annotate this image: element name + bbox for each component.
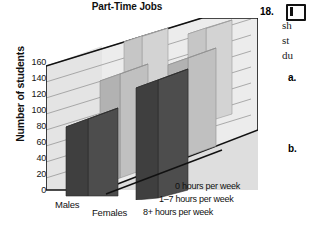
problem-number: 18. bbox=[260, 6, 274, 17]
y-tick-160: 160 bbox=[20, 57, 46, 67]
y-tick-100: 100 bbox=[20, 105, 46, 115]
problem-text-line-1: sh bbox=[282, 19, 292, 31]
y-tick-120: 120 bbox=[20, 89, 46, 99]
chart-title: Part-Time Jobs bbox=[52, 1, 202, 12]
page-root: Part-Time Jobs Number of students 160 14… bbox=[0, 0, 310, 226]
textbook-problem-18: 18. sh st du a. b. bbox=[258, 0, 310, 226]
y-tick-60: 60 bbox=[20, 137, 46, 147]
problem-subpart-b: b. bbox=[288, 143, 297, 154]
y-axis-ticks: 160 140 120 100 80 60 40 20 0 bbox=[18, 0, 46, 226]
problem-text-line-2: st bbox=[282, 34, 289, 46]
bar-chart-figure: Part-Time Jobs Number of students 160 14… bbox=[0, 0, 258, 226]
problem-text-line-3: du bbox=[282, 49, 293, 61]
y-tick-40: 40 bbox=[20, 153, 46, 163]
problem-subpart-a: a. bbox=[288, 72, 296, 83]
y-tick-0: 0 bbox=[20, 185, 46, 195]
depth-label-0-hours: 0 hours per week bbox=[175, 181, 240, 191]
category-label-females: Females bbox=[92, 207, 127, 218]
y-tick-20: 20 bbox=[20, 169, 46, 179]
category-label-males: Males bbox=[55, 199, 79, 210]
y-tick-80: 80 bbox=[20, 121, 46, 131]
depth-label-1-7-hours: 1–7 hours per week bbox=[159, 194, 234, 204]
chart-3d-canvas bbox=[46, 18, 258, 200]
depth-label-8plus-hours: 8+ hours per week bbox=[143, 207, 213, 217]
chart-plot-area bbox=[46, 18, 258, 198]
y-tick-140: 140 bbox=[20, 73, 46, 83]
